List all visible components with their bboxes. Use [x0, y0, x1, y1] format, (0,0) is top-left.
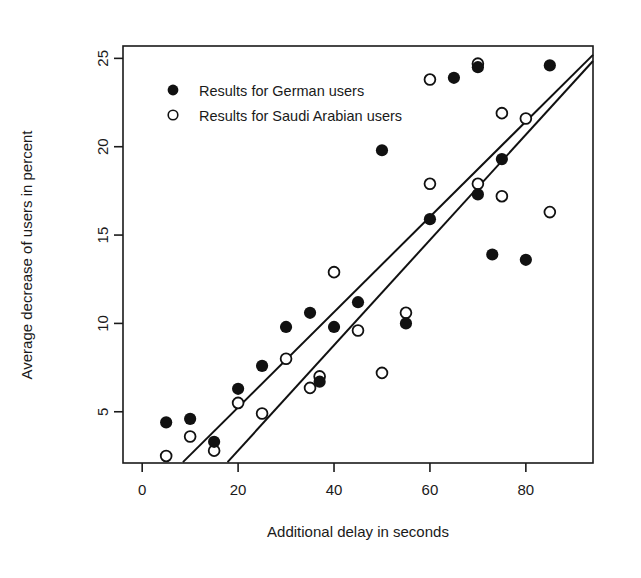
- data-point-open-circle: [496, 108, 507, 119]
- legend-marker-open-circle-icon: [168, 110, 178, 120]
- y-axis-title: Average decrease of users in percent: [18, 130, 35, 380]
- x-tick-label-20: 20: [230, 481, 247, 498]
- data-point-open-circle: [281, 353, 292, 364]
- x-tick-label-80: 80: [518, 481, 535, 498]
- y-axis-ticks: [114, 58, 123, 411]
- data-point-filled-circle: [472, 61, 484, 73]
- data-point-open-circle: [353, 325, 364, 336]
- data-point-open-circle: [161, 451, 172, 462]
- data-point-filled-circle: [304, 307, 316, 319]
- x-axis-tick-labels: 020406080: [138, 481, 534, 498]
- data-point-open-circle: [305, 383, 316, 394]
- scatter-plot-figure: 510152025 020406080 Results for German u…: [0, 0, 641, 578]
- y-tick-label-15: 15: [94, 227, 111, 244]
- y-tick-label-10: 10: [94, 315, 111, 332]
- x-axis-ticks: [142, 463, 526, 472]
- data-point-filled-circle: [232, 383, 244, 395]
- data-point-open-circle: [377, 367, 388, 378]
- data-point-open-circle: [329, 267, 340, 278]
- data-point-filled-circle: [472, 188, 484, 200]
- data-point-filled-circle: [520, 254, 532, 266]
- data-point-open-circle: [185, 431, 196, 442]
- data-point-filled-circle: [160, 416, 172, 428]
- legend-marker-filled-circle-icon: [168, 85, 179, 96]
- data-point-filled-circle: [280, 321, 292, 333]
- data-point-filled-circle: [400, 317, 412, 329]
- data-point-open-circle: [496, 191, 507, 202]
- data-point-filled-circle: [256, 360, 268, 372]
- data-point-filled-circle: [184, 413, 196, 425]
- x-tick-label-60: 60: [422, 481, 439, 498]
- data-point-open-circle: [520, 113, 531, 124]
- data-point-filled-circle: [376, 144, 388, 156]
- data-point-filled-circle: [448, 72, 460, 84]
- data-point-open-circle: [544, 207, 555, 218]
- data-point-open-circle: [401, 307, 412, 318]
- data-point-open-circle: [233, 398, 244, 409]
- data-point-filled-circle: [352, 296, 364, 308]
- data-point-filled-circle: [328, 321, 340, 333]
- data-point-filled-circle: [314, 376, 326, 388]
- data-point-filled-circle: [208, 436, 220, 448]
- x-axis-title: Additional delay in seconds: [267, 523, 449, 540]
- legend-label-saudi: Results for Saudi Arabian users: [199, 108, 402, 124]
- x-tick-label-0: 0: [138, 481, 146, 498]
- legend-label-german: Results for German users: [199, 83, 364, 99]
- data-point-open-circle: [472, 178, 483, 189]
- data-point-filled-circle: [424, 213, 436, 225]
- data-point-filled-circle: [496, 153, 508, 165]
- y-tick-label-5: 5: [94, 408, 111, 416]
- data-point-open-circle: [257, 408, 268, 419]
- y-tick-label-20: 20: [94, 138, 111, 155]
- y-tick-label-25: 25: [94, 50, 111, 67]
- x-tick-label-40: 40: [326, 481, 343, 498]
- data-point-filled-circle: [544, 59, 556, 71]
- data-point-open-circle: [425, 74, 436, 85]
- data-point-open-circle: [425, 178, 436, 189]
- data-point-filled-circle: [486, 248, 498, 260]
- plot-canvas: 510152025 020406080 Results for German u…: [0, 0, 641, 578]
- y-axis-tick-labels: 510152025: [94, 50, 111, 416]
